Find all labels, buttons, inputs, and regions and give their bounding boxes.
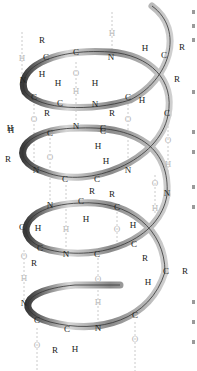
atom-label: N (164, 189, 171, 198)
atom-label: C (19, 223, 25, 232)
atom-label: C (73, 48, 79, 57)
atom-label: H (55, 79, 62, 88)
atom-label: C (131, 240, 137, 249)
atom-label: C (57, 99, 63, 108)
atom-label: N (33, 166, 40, 175)
atom-label: O (73, 69, 80, 78)
atom-label: N (47, 201, 54, 210)
atom-label: H (8, 126, 15, 135)
atom-label: C (78, 197, 84, 206)
atom-label: H (142, 44, 149, 53)
atom-label: C (94, 175, 100, 184)
atom-label: O (114, 225, 121, 234)
atom-label: C (161, 51, 167, 60)
atom-label: H (103, 157, 110, 166)
atom-label: C (114, 203, 120, 212)
atom-label: C (31, 93, 37, 102)
atom-label: O (21, 252, 28, 261)
atom-label: N (21, 299, 28, 308)
atom-label: O (95, 275, 102, 284)
atom-label: O (125, 115, 132, 124)
atom-label: N (125, 166, 132, 175)
atom-label: O (34, 341, 41, 350)
atom-label: H (73, 87, 80, 96)
atom-label: H (95, 298, 102, 307)
atom-label: C (34, 316, 40, 325)
atom-label: R (182, 267, 188, 276)
atom-label: H (83, 215, 90, 224)
atom-label: H (63, 225, 70, 234)
atom-label: N (95, 324, 102, 333)
atom-label: N (20, 76, 27, 85)
atom-label: C (64, 325, 70, 334)
atom-label: R (109, 190, 115, 199)
atom-label: C (125, 93, 131, 102)
atom-label: O (152, 179, 159, 188)
clipped-text-edge (192, 0, 197, 371)
atom-label: H (92, 79, 99, 88)
atom-label: N (63, 250, 70, 259)
atom-label: N (73, 122, 80, 131)
atom-label: R (52, 346, 58, 355)
atom-label: N (92, 100, 99, 109)
atom-label: R (89, 187, 95, 196)
atom-label: H (145, 278, 152, 287)
atom-label: H (19, 54, 26, 63)
atom-label: H (165, 160, 172, 169)
atom-label: H (139, 96, 146, 105)
atom-label: H (130, 221, 137, 230)
alpha-helix-diagram: HRCHCNHHCRNHHCCNCRHROHOORCHNCHCCRHOOHNCC… (0, 0, 197, 371)
atom-label: C (164, 109, 170, 118)
helix-ribbon-drawing (0, 0, 197, 371)
atom-label: C (62, 175, 68, 184)
atom-label: H (152, 204, 159, 213)
atom-label: R (44, 109, 50, 118)
atom-label: C (37, 244, 43, 253)
atom-label: C (100, 127, 106, 136)
atom-label: C (43, 53, 49, 62)
atom-label: O (31, 115, 38, 124)
atom-label: C (132, 311, 138, 320)
atom-label: H (21, 274, 28, 283)
atom-label: C (94, 250, 100, 259)
atom-label: H (35, 224, 42, 233)
atom-label: R (5, 155, 11, 164)
atom-label: C (163, 267, 169, 276)
atom-label: R (174, 75, 180, 84)
atom-label: O (47, 153, 54, 162)
atom-label: R (109, 109, 115, 118)
atom-label: H (109, 29, 116, 38)
atom-label: C (47, 129, 53, 138)
atom-label: N (108, 53, 115, 62)
atom-label: H (95, 142, 102, 151)
atom-label: H (39, 70, 46, 79)
atom-label: R (179, 43, 185, 52)
atom-label: R (31, 259, 37, 268)
atom-label: O (165, 136, 172, 145)
atom-label: R (142, 254, 148, 263)
atom-label: H (72, 345, 79, 354)
atom-label: R (39, 36, 45, 45)
atom-label: O (132, 335, 139, 344)
